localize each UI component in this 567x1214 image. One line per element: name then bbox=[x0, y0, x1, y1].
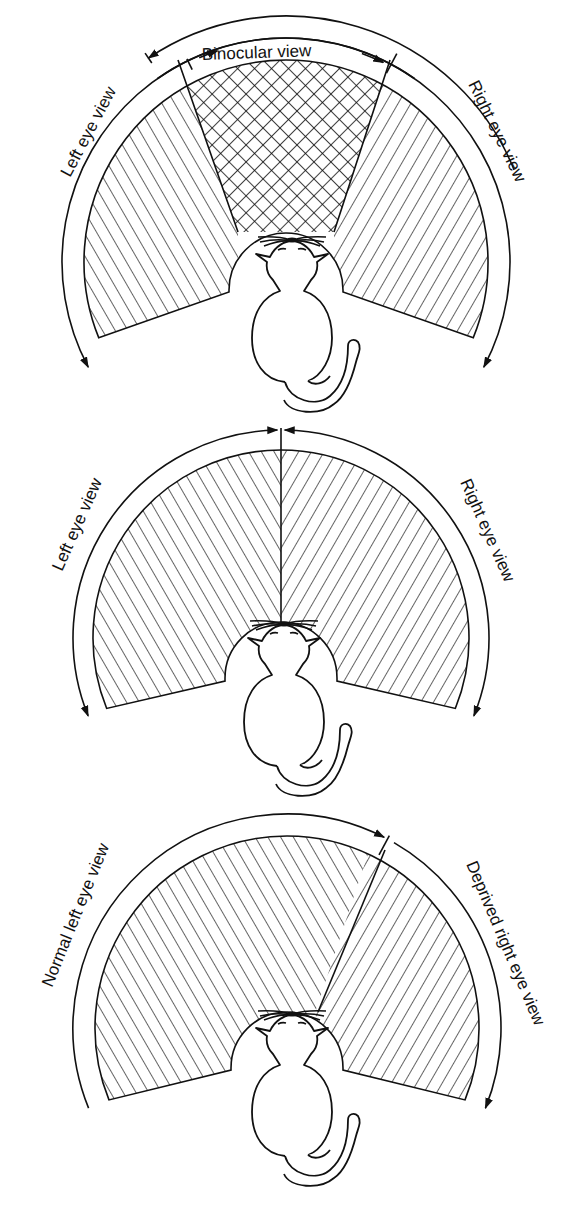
cat-nose bbox=[279, 622, 289, 627]
panel2-left-label: Left eye view bbox=[48, 475, 106, 574]
panel3-left-label: Normal left eye view bbox=[38, 840, 113, 990]
cat-nose bbox=[287, 238, 297, 243]
panel2-right-label: Right eye view bbox=[456, 476, 519, 585]
left-extent-tick bbox=[145, 53, 152, 63]
panel1-binocular-label: Binocular view bbox=[201, 41, 312, 64]
panel1-right-label: Right eye view bbox=[464, 77, 530, 185]
cat-nose bbox=[287, 1012, 297, 1017]
visual-field-figure: Left eye view Right eye view Binocular v… bbox=[0, 0, 567, 1214]
